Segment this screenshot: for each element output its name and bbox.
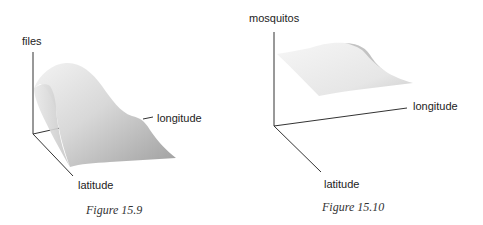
figures-canvas	[0, 0, 483, 225]
axis-label-latitude-15-10: latitude	[324, 179, 359, 190]
axis-label-longitude-15-9: longitude	[157, 113, 202, 124]
axis-label-latitude-15-9: latitude	[78, 180, 113, 191]
figure-caption-15-10: Figure 15.10	[322, 201, 384, 213]
figure-15-9-surface	[34, 63, 176, 167]
axis-label-longitude-15-10: longitude	[413, 101, 458, 112]
figure-15-10-surface	[277, 43, 413, 96]
axis-label-files: files	[22, 36, 42, 47]
figure-caption-15-9: Figure 15.9	[86, 204, 142, 216]
axis-label-mosquitos: mosquitos	[249, 13, 299, 24]
